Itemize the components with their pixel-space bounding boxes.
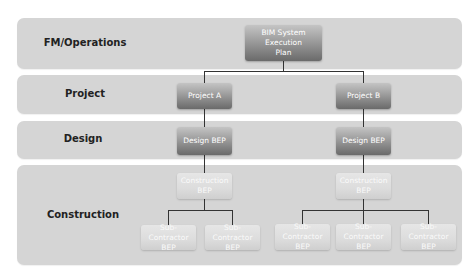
connector-design-b-construction — [363, 155, 364, 173]
connector-construction-b-down — [363, 199, 364, 210]
connector-bim-projects — [204, 71, 364, 72]
band-label-design: Design — [64, 133, 103, 144]
node-sub-contractor-bep-a1: Sub-Contractor BEP — [141, 225, 196, 250]
node-bim-system-execution-plan: BIM System Execution Plan — [245, 25, 322, 61]
node-construction-bep-a: Construction BEP — [177, 173, 232, 199]
band-label-fm-operations: FM/Operations — [44, 37, 127, 48]
node-sub-contractor-bep-b2: Sub-Contractor BEP — [336, 224, 391, 250]
connector-construction-b-subs — [302, 210, 428, 211]
band-label-construction: Construction — [47, 209, 119, 220]
connector-project-b-design — [363, 109, 364, 127]
connector-construction-a-down — [204, 199, 205, 210]
band-label-project: Project — [65, 88, 105, 99]
connector-project-a-design — [204, 109, 205, 127]
node-project-a: Project A — [177, 83, 232, 109]
connector-bim-down — [283, 61, 284, 71]
node-design-bep-b: Design BEP — [336, 127, 391, 155]
node-project-b: Project B — [336, 83, 391, 109]
connector-construction-a-subs — [168, 210, 233, 211]
node-sub-contractor-bep-a2: Sub-Contractor BEP — [205, 225, 260, 250]
node-design-bep-a: Design BEP — [177, 127, 232, 155]
node-construction-bep-b: Construction BEP — [336, 173, 391, 199]
node-sub-contractor-bep-b3: Sub-Contractor BEP — [401, 224, 456, 250]
connector-design-a-construction — [204, 155, 205, 173]
connector-to-project-b — [363, 71, 364, 83]
connector-to-project-a — [204, 71, 205, 83]
node-sub-contractor-bep-b1: Sub-Contractor BEP — [275, 224, 330, 250]
